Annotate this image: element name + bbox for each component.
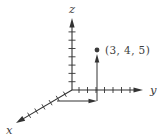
point-marker (95, 48, 100, 53)
x-axis-arrowhead (16, 116, 25, 123)
x-axis: x (6, 90, 72, 137)
path-arrowhead-up (95, 54, 100, 63)
point-coordinates-label: (3, 4, 5) (105, 44, 150, 56)
path-arrowhead-right (89, 99, 98, 104)
y-axis-arrowhead (134, 87, 144, 92)
plotted-point: (3, 4, 5) (95, 44, 151, 56)
axes-svg: z y x (3, 4, 5) (0, 0, 165, 140)
z-axis-arrowhead (69, 18, 74, 28)
x-axis-label: x (6, 123, 13, 137)
point-path (57, 54, 99, 103)
y-axis-label: y (149, 83, 157, 97)
z-axis-label: z (68, 2, 76, 16)
y-axis: y (72, 83, 157, 97)
z-axis: z (68, 2, 76, 90)
coordinate-figure: z y x (3, 4, 5) (0, 0, 165, 140)
